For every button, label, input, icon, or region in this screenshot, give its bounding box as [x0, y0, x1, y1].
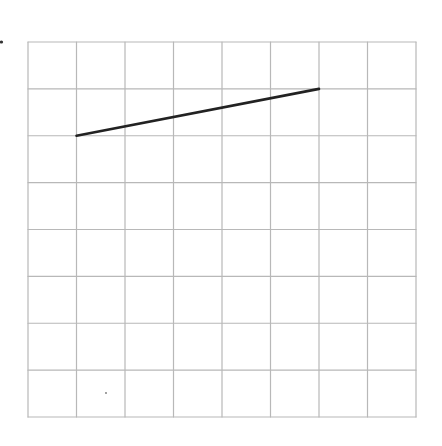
dot-mark	[105, 392, 107, 394]
drawn-segments	[77, 89, 320, 136]
grid-lines	[28, 42, 416, 417]
dot-mark	[0, 40, 3, 43]
grid-diagram	[0, 0, 442, 446]
line-segment	[77, 89, 320, 136]
stray-marks	[0, 40, 107, 394]
